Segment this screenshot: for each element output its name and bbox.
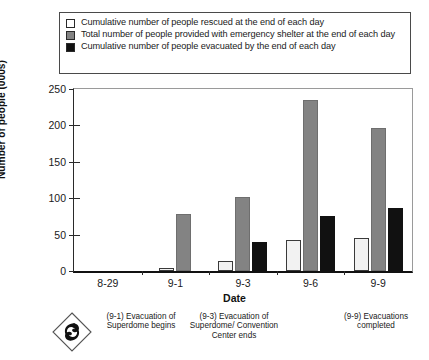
bar-9-3-black [252,242,267,271]
bar-9-6-white [286,240,301,271]
chart-plot-area: 050100150200250 8-299-19-39-69-9 [73,88,413,273]
bar-9-1-gray [176,214,191,271]
bar-9-9-gray [371,128,386,271]
bar-group-9-3 [209,89,277,271]
legend-item-evacuated: Cumulative number of people evacuated by… [66,41,405,52]
x-axis-title-text: Date [183,292,246,304]
x-tick-1 [142,271,143,275]
bar-9-6-black [320,216,335,271]
x-tick-label-9-9: 9-9 [371,277,386,289]
legend-label-shelter: Total number of people provided with eme… [81,29,395,40]
x-tick-2 [209,271,210,275]
annotation-9-3: (9-3) Evacuation of Superdome/ Conventio… [188,312,280,340]
bar-9-9-black [388,208,403,271]
y-tick-label-150: 150 [48,156,66,168]
y-axis-title: Number of people (000s) [0,60,7,179]
y-tick-label-250: 250 [48,83,66,95]
x-axis-title: Date [0,292,429,304]
bar-groups [74,89,412,271]
bar-9-9-white [354,238,369,271]
x-tick-label-9-3: 9-3 [235,277,250,289]
bar-9-1-white [159,268,174,271]
chart-legend: Cumulative number of people rescued at t… [59,12,411,74]
bar-group-9-1 [142,89,210,271]
x-tick-label-9-1: 9-1 [168,277,183,289]
x-tick-3 [277,271,278,275]
x-tick-label-8-29: 8-29 [97,277,118,289]
bar-9-3-gray [235,197,250,271]
y-tick-label-0: 0 [60,265,66,277]
y-tick-label-50: 50 [54,229,66,241]
legend-item-rescued: Cumulative number of people rescued at t… [66,17,405,28]
y-tick-label-200: 200 [48,119,66,131]
legend-swatch-rescued-icon [66,19,75,28]
bar-group-9-9 [344,89,412,271]
bar-9-3-white [218,261,233,271]
hurricane-icon [50,310,94,354]
y-tick-0 [69,271,74,272]
annotation-9-1: (9-1) Evacuation of Superdome begins [100,312,182,331]
legend-label-rescued: Cumulative number of people rescued at t… [81,17,324,28]
legend-swatch-evacuated-icon [66,43,75,52]
legend-item-shelter: Total number of people provided with eme… [66,29,405,40]
annotation-9-9: (9-9) Evacuations completed [330,312,422,331]
bar-group-8-29 [74,89,142,271]
bar-9-6-gray [303,100,318,271]
x-tick-label-9-6: 9-6 [303,277,318,289]
legend-label-evacuated: Cumulative number of people evacuated by… [81,41,336,52]
chart-annotations: (9-1) Evacuation of Superdome begins (9-… [0,306,429,360]
legend-swatch-shelter-icon [66,31,75,40]
bar-group-9-6 [277,89,345,271]
x-tick-4 [344,271,345,275]
y-tick-label-100: 100 [48,192,66,204]
